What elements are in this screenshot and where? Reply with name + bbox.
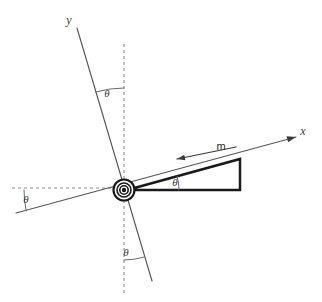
x-axis-arrowhead-icon bbox=[287, 136, 297, 142]
mass-direction-arrow-shaft bbox=[177, 147, 236, 159]
physics-diagram-canvas: y x m θ θ θ θ bbox=[0, 0, 322, 302]
theta-label-left: θ bbox=[23, 193, 29, 205]
y-axis-line bbox=[77, 28, 152, 281]
theta-label-y-axis: θ bbox=[104, 87, 110, 99]
diagram-svg: y x m θ θ θ θ bbox=[0, 0, 322, 302]
x-axis-label: x bbox=[299, 124, 306, 138]
angle-arc-theta-y bbox=[96, 88, 124, 92]
pivot-center-dot bbox=[122, 188, 126, 192]
theta-label-incline: θ bbox=[172, 176, 178, 188]
theta-label-bottom: θ bbox=[123, 246, 129, 258]
x-axis-line bbox=[16, 137, 296, 213]
y-axis-label: y bbox=[65, 13, 72, 27]
inclined-plane-wedge bbox=[127, 159, 240, 190]
mass-label: m bbox=[216, 140, 225, 152]
